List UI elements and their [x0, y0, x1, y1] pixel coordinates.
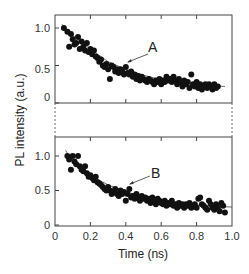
bottom-y-tick-1: 1.0 — [35, 150, 50, 162]
data-point — [188, 72, 194, 78]
annotation-b: B — [151, 165, 160, 181]
x-tick-0: 0 — [52, 230, 58, 242]
data-point — [220, 203, 226, 209]
data-point — [215, 84, 221, 90]
x-tick-06: 0.6 — [154, 230, 169, 242]
data-point — [107, 76, 113, 82]
data-point — [79, 39, 85, 45]
top-panel-ticks — [55, 15, 197, 103]
x-axis-label: Time (ns) — [118, 247, 168, 261]
bottom-y-tick-05: 0.5 — [35, 184, 50, 196]
data-point — [66, 44, 72, 50]
y-axis-label: PL intensity (a.u.) — [13, 74, 27, 167]
data-point — [93, 174, 99, 180]
bottom-series-points — [64, 153, 228, 216]
annotation-a-arrowhead — [127, 59, 132, 63]
bottom-panel-frame — [55, 137, 232, 226]
top-series-points — [61, 25, 221, 93]
data-point — [123, 64, 129, 70]
data-point — [204, 207, 210, 213]
data-point — [222, 210, 228, 216]
data-point — [68, 31, 74, 37]
bottom-panel-ticks — [55, 137, 197, 226]
data-point — [75, 153, 81, 159]
data-point — [126, 186, 132, 192]
data-point — [194, 205, 200, 211]
data-point — [185, 79, 191, 85]
data-point — [217, 208, 223, 214]
data-point — [98, 57, 104, 63]
top-y-tick-1: 1.0 — [35, 22, 50, 34]
top-y-tick-05: 0.5 — [35, 63, 50, 75]
annotation-a: A — [148, 39, 158, 55]
data-point — [82, 163, 88, 169]
x-tick-08: 0.8 — [189, 230, 204, 242]
top-y-tick-0: 0 — [44, 91, 50, 103]
data-point — [197, 194, 203, 200]
data-point — [91, 48, 97, 54]
data-point — [123, 198, 129, 204]
data-point — [70, 153, 76, 159]
x-tick-1: 1.0 — [224, 230, 239, 242]
data-point — [73, 40, 79, 46]
data-point — [84, 40, 90, 46]
x-tick-02: 0.2 — [83, 230, 98, 242]
bottom-y-tick-0: 0 — [44, 219, 50, 231]
pl-decay-chart: 1.0 0.5 0 1.0 0.5 0 0 0.2 0.4 0.6 0.8 1.… — [0, 0, 249, 274]
x-tick-04: 0.4 — [118, 230, 133, 242]
data-point — [103, 61, 109, 67]
annotation-b-arrowhead — [129, 181, 134, 185]
data-point — [68, 167, 74, 173]
